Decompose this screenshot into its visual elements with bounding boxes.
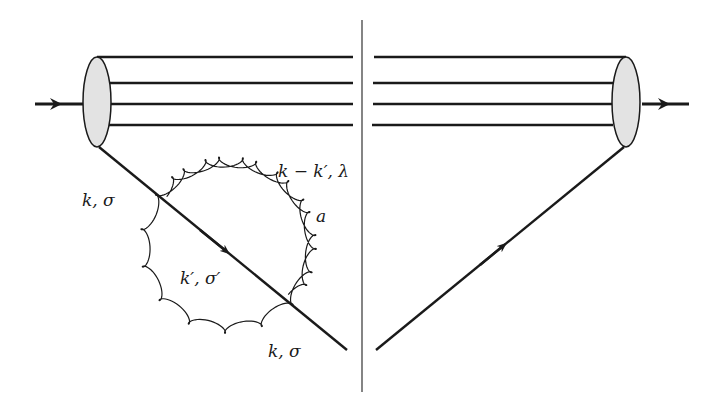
label-incoming-quark: k, σ <box>82 192 115 209</box>
incoming-hadron-arrow <box>35 98 83 110</box>
label-gluon-color: a <box>316 208 326 225</box>
gluon-loop <box>141 157 316 333</box>
spectator-lines-right <box>372 57 626 125</box>
hadron-blob-right <box>612 57 640 147</box>
outgoing-hadron-arrow <box>642 98 689 110</box>
hadron-blob-left <box>83 57 111 147</box>
label-internal-quark: k′, σ′ <box>180 270 220 287</box>
label-gluon-momentum: k − k′, λ <box>278 163 349 180</box>
label-outgoing-quark: k, σ <box>268 343 301 360</box>
quark-line-right <box>376 147 624 350</box>
spectator-lines-left <box>97 57 353 125</box>
